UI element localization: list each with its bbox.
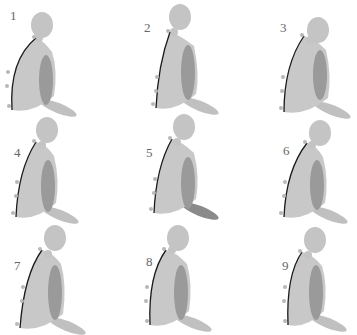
arm-shape [41, 160, 55, 212]
head-shape [307, 17, 329, 43]
posture-panel-3: 3 [240, 0, 357, 110]
landmark-marker [279, 211, 283, 215]
landmark-marker [5, 84, 9, 88]
landmark-marker [152, 191, 156, 195]
head-shape [173, 114, 195, 140]
landmark-marker [300, 33, 304, 37]
head-shape [169, 4, 191, 30]
head-shape [167, 225, 189, 251]
posture-silhouette [120, 105, 239, 220]
posture-panel-7: 7 [0, 220, 119, 330]
head-shape [31, 12, 53, 38]
head-shape [44, 225, 66, 251]
landmark-marker [11, 211, 15, 215]
neck-shape [44, 250, 52, 258]
landmark-marker [168, 136, 172, 140]
landmark-marker [166, 29, 170, 33]
landmark-marker [162, 247, 166, 251]
landmark-marker [21, 285, 25, 289]
landmark-marker [32, 139, 36, 143]
neck-shape [304, 251, 312, 259]
head-shape [309, 120, 331, 146]
landmark-marker [14, 194, 18, 198]
posture-silhouette [240, 0, 357, 115]
arm-shape [181, 157, 195, 209]
posture-panel-6: 6 [240, 105, 357, 215]
landmark-marker [298, 249, 302, 253]
landmark-marker [282, 194, 286, 198]
landmark-marker [38, 247, 42, 251]
neck-shape [173, 138, 181, 146]
arm-shape [313, 50, 327, 100]
head-shape [36, 117, 58, 143]
landmark-marker [283, 285, 287, 289]
arm-shape [310, 160, 324, 210]
posture-silhouette [120, 0, 239, 115]
posture-silhouette [120, 220, 239, 335]
landmark-marker [145, 285, 149, 289]
posture-silhouette [240, 220, 357, 335]
landmark-marker [283, 319, 287, 323]
head-shape [304, 227, 326, 253]
posture-panel-1: 1 [0, 0, 119, 110]
posture-panel-5: 5 [120, 105, 239, 215]
posture-panel-4: 4 [0, 105, 119, 215]
arm-shape [174, 265, 188, 320]
landmark-marker [32, 35, 36, 39]
posture-silhouette [0, 0, 119, 115]
landmark-marker [20, 299, 24, 303]
landmark-marker [15, 180, 19, 184]
landmark-marker [15, 322, 19, 326]
posture-silhouette [240, 105, 357, 220]
landmark-marker [149, 207, 153, 211]
landmark-marker [155, 75, 159, 79]
landmark-marker [145, 319, 149, 323]
landmark-marker [6, 70, 10, 74]
posture-silhouette [0, 105, 119, 220]
arm-shape [48, 265, 62, 320]
arm-shape [181, 45, 195, 100]
landmark-marker [280, 89, 284, 93]
landmark-marker [153, 177, 157, 181]
posture-panel-9: 9 [240, 220, 357, 330]
landmark-marker [282, 299, 286, 303]
landmark-marker [283, 180, 287, 184]
landmark-marker [154, 89, 158, 93]
posture-panel-2: 2 [120, 0, 239, 110]
posture-silhouette [0, 220, 119, 335]
arm-shape [309, 265, 323, 320]
arm-shape [39, 55, 53, 105]
landmark-marker [281, 75, 285, 79]
landmark-marker [144, 299, 148, 303]
landmark-marker [303, 140, 307, 144]
posture-panel-8: 8 [120, 220, 239, 330]
